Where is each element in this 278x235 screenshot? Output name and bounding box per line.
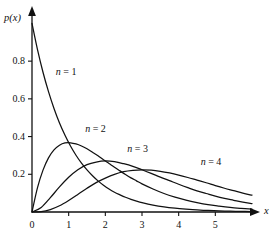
y-axis-arrow-head bbox=[28, 6, 36, 16]
x-axis-tick-label: 4 bbox=[169, 220, 189, 230]
y-axis-tick-label: 0.8 bbox=[0, 56, 25, 66]
y-axis-tick-label: 0.2 bbox=[0, 169, 25, 179]
x-axis-tick-label: 0 bbox=[22, 220, 42, 230]
y-axis-tick-label: 0.6 bbox=[0, 94, 25, 104]
gamma-distribution-chart: p(x) x 0.20.40.60.8 012345 n = 1n = 2n =… bbox=[0, 0, 278, 235]
y-axis-tick-label: 0.4 bbox=[0, 132, 25, 142]
plot-area bbox=[0, 0, 278, 235]
x-axis-tick-label: 5 bbox=[205, 220, 225, 230]
x-axis-title: x bbox=[264, 206, 269, 217]
x-axis-tick-label: 3 bbox=[132, 220, 152, 230]
x-axis-tick-label: 1 bbox=[59, 220, 79, 230]
series-label-n-2: n = 2 bbox=[85, 124, 106, 134]
y-axis-title: p(x) bbox=[4, 13, 21, 24]
x-axis-tick-label: 2 bbox=[95, 220, 115, 230]
series-label-n-4: n = 4 bbox=[201, 157, 222, 167]
series-label-n-3: n = 3 bbox=[127, 144, 148, 154]
curves-group bbox=[32, 23, 252, 212]
series-label-n-1: n = 1 bbox=[56, 67, 77, 77]
